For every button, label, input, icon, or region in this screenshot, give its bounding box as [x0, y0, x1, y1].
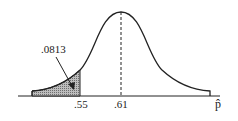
sampling-distribution-figure: .0813 .55 .61 p̂	[0, 0, 238, 121]
x-axis-label: p̂	[215, 98, 221, 110]
shaded-area-label: .0813	[41, 44, 66, 55]
tick-label-cutoff: .55	[74, 99, 88, 110]
tick-label-mean: .61	[114, 99, 128, 110]
